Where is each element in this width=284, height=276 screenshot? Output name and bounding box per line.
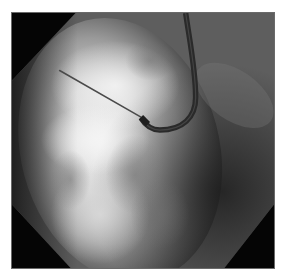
xray-canvas (12, 13, 274, 268)
fluoroscopy-image: Fluoroscopic X-ray view of the heart wit… (11, 12, 275, 269)
exposed-field (12, 13, 274, 268)
